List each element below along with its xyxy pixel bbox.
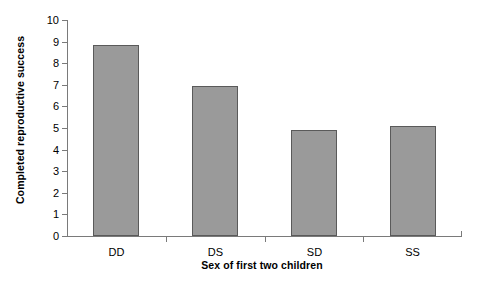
y-axis-tick: 10	[62, 20, 67, 21]
x-axis-endcap	[461, 231, 462, 237]
bar-chart-figure: Completed reproductive success 012345678…	[0, 0, 490, 285]
y-axis-tick: 0	[62, 236, 67, 237]
x-axis-separator-tick	[166, 237, 167, 242]
y-axis-tick-label: 3	[53, 163, 59, 179]
x-axis-category-label: DD	[67, 246, 166, 258]
y-axis-tick-label: 1	[53, 206, 59, 222]
y-axis-line	[67, 20, 68, 237]
x-axis-category-label: SS	[363, 246, 462, 258]
y-axis-tick-label: 6	[53, 98, 59, 114]
y-axis-tick-label: 4	[53, 142, 59, 158]
plot-area: 012345678910 DDDSSDSS	[67, 20, 462, 236]
bar-sd	[291, 130, 337, 236]
y-axis-tick: 7	[62, 85, 67, 86]
bar-ss	[390, 126, 436, 236]
x-axis-separator-tick	[265, 237, 266, 242]
y-axis-title: Completed reproductive success	[8, 0, 32, 240]
y-axis-tick-label: 0	[53, 228, 59, 244]
x-axis-separator-tick	[363, 237, 364, 242]
y-axis-tick: 5	[62, 128, 67, 129]
y-axis-tick: 6	[62, 106, 67, 107]
y-axis-tick-label: 8	[53, 55, 59, 71]
bar-dd	[93, 45, 139, 236]
y-axis-tick: 3	[62, 171, 67, 172]
bar-ds	[192, 86, 238, 236]
y-axis-tick: 2	[62, 193, 67, 194]
y-axis-title-text: Completed reproductive success	[14, 36, 26, 204]
x-axis-category-label: DS	[166, 246, 265, 258]
y-axis-tick-label: 2	[53, 185, 59, 201]
y-axis-tick: 1	[62, 214, 67, 215]
y-axis-tick: 8	[62, 63, 67, 64]
x-axis-title: Sex of first two children	[60, 259, 464, 271]
y-axis-tick: 9	[62, 42, 67, 43]
y-axis-tick-label: 10	[47, 12, 59, 28]
y-axis-tick-label: 9	[53, 34, 59, 50]
x-axis-category-label: SD	[265, 246, 364, 258]
y-axis-tick-label: 7	[53, 77, 59, 93]
y-axis-tick-label: 5	[53, 120, 59, 136]
y-axis-tick: 4	[62, 150, 67, 151]
